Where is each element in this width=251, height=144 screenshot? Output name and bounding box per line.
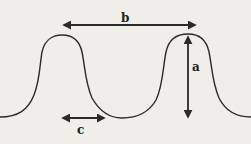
label-b: b bbox=[121, 12, 129, 24]
label-c: c bbox=[77, 124, 84, 136]
wave-diagram: b a c bbox=[0, 0, 251, 144]
wave-curve bbox=[0, 34, 251, 118]
label-a: a bbox=[192, 61, 200, 73]
